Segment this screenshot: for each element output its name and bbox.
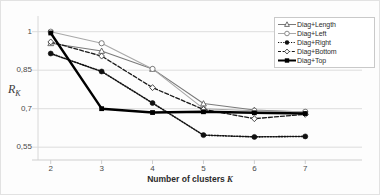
data-point-marker [48,51,53,56]
x-tick-label: 6 [244,164,264,173]
series-line [51,54,306,137]
x-axis-title: Number of clusters K [0,174,380,184]
data-point-marker [150,66,155,71]
legend-swatch-icon [277,29,297,38]
data-point-marker [99,69,104,74]
legend-label: Diag+Right [297,38,331,47]
series-line [51,42,306,119]
x-axis-title-text: Number of clusters [147,174,224,184]
data-point-marker [150,101,155,106]
y-axis-title: RK [8,82,21,98]
legend-label: Diag+Top [297,56,326,65]
x-tick-label: 2 [41,164,61,173]
chart-legend: Diag+Length Diag+Left Diag+Right Diag+Bo… [274,17,375,68]
legend-swatch-icon [277,56,297,65]
legend-swatch-icon [277,20,297,29]
series-line [51,32,306,112]
data-point-marker [201,109,206,114]
data-point-marker [99,53,105,59]
data-point-marker [303,134,308,139]
data-point-marker [303,111,308,116]
data-point-marker [252,116,258,122]
y-axis-title-sub: K [15,89,20,98]
legend-item-diag-right: Diag+Right [277,38,372,47]
series-diag-left [48,29,308,114]
y-tick-label: 0,7 [2,104,32,113]
data-point-marker [99,106,104,111]
data-point-marker [201,133,206,138]
legend-swatch-icon [277,38,297,47]
data-point-marker [99,41,104,46]
y-tick-label: 1 [2,27,32,36]
legend-label: Diag+Bottom [297,47,337,56]
data-point-marker [48,31,53,36]
y-tick-label: 0,85 [2,65,32,74]
data-point-marker [252,110,257,115]
legend-item-diag-top: Diag+Top [277,56,372,65]
x-tick-label: 5 [193,164,213,173]
x-tick-label: 4 [143,164,163,173]
data-point-marker [150,85,156,91]
legend-swatch-icon [277,47,297,56]
x-axis-title-variable: K [227,174,233,184]
legend-item-diag-left: Diag+Left [277,29,372,38]
series-diag-bottom [48,39,308,122]
series-diag-right [48,51,308,139]
legend-label: Diag+Length [297,20,336,29]
legend-item-diag-bottom: Diag+Bottom [277,47,372,56]
series-line [51,33,306,114]
data-point-marker [252,134,257,139]
y-tick-label: 0,55 [2,142,32,151]
x-tick-label: 7 [295,164,315,173]
series-diag-top [48,31,307,116]
data-point-marker [150,110,155,115]
series-line [51,43,306,112]
chart-container: 1 0,85 0,7 0,55 RK 2 3 4 5 6 7 Number of… [0,0,380,195]
x-tick-label: 3 [92,164,112,173]
legend-label: Diag+Left [297,29,326,38]
legend-item-diag-length: Diag+Length [277,20,372,29]
